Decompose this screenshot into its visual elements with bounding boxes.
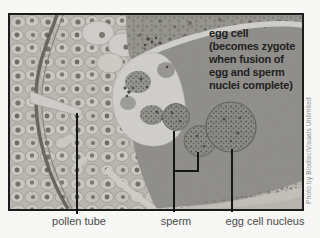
egg-cell-annotation-line: (becomes zygote bbox=[209, 40, 309, 53]
egg-cell-annotation-line: when fusion of bbox=[209, 53, 309, 66]
callout-label-egg-cell-nucleus: egg cell nucleus bbox=[226, 215, 305, 227]
egg-cell-annotation-line: nuclei complete) bbox=[209, 79, 309, 92]
figure: egg cell (becomes zygote when fusion of … bbox=[0, 0, 320, 238]
egg-cell-nucleus-leader-line bbox=[231, 149, 233, 212]
egg-cell-annotation: egg cell (becomes zygote when fusion of … bbox=[209, 27, 309, 92]
egg-cell-annotation-line: egg and sperm bbox=[209, 66, 309, 79]
callout-label-sperm: sperm bbox=[161, 215, 192, 227]
pollen-tube-leader-line bbox=[76, 113, 78, 214]
egg-cell-annotation-line: egg cell bbox=[209, 27, 309, 40]
sperm-leader-line-elbow-horizontal bbox=[173, 170, 199, 172]
sperm-leader-line-elbow-vertical bbox=[197, 152, 199, 172]
photo-credit: Photo by Biodisc/Visuals Unlimited bbox=[305, 92, 314, 210]
callout-label-pollen-tube: pollen tube bbox=[52, 215, 106, 227]
